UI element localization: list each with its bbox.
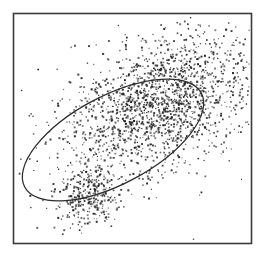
scatter-points-layer (0, 0, 266, 259)
scatter-plot-figure (0, 0, 266, 259)
